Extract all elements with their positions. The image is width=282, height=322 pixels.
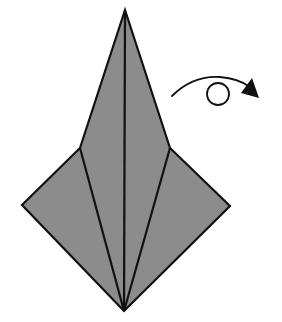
- diagram-svg: [0, 0, 282, 322]
- arrowhead: [241, 78, 259, 98]
- arrow-loop: [207, 83, 229, 105]
- center-crease-line: [124, 10, 125, 311]
- folded-paper-shape: [22, 10, 230, 311]
- origami-diagram: [0, 0, 282, 322]
- turn-over-arrow-icon: [172, 77, 259, 105]
